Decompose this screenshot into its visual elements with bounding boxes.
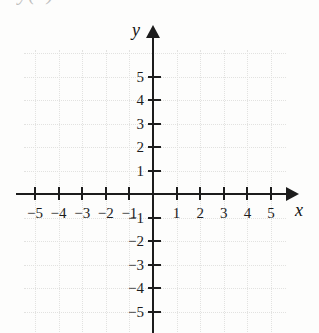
x-axis-tick-label: −4	[46, 206, 72, 221]
y-axis-tick	[148, 217, 161, 219]
y-axis-tick-label: −5	[118, 305, 144, 320]
y-axis-tick-label: 1	[118, 164, 144, 179]
y-axis-tick	[148, 123, 161, 125]
y-axis-label: y	[132, 20, 140, 41]
y-axis-tick	[148, 99, 161, 101]
y-axis-tick-label: −3	[118, 258, 144, 273]
y-axis-tick-label: 3	[118, 117, 144, 132]
x-axis-tick	[105, 187, 107, 200]
y-axis-tick-label: −1	[118, 211, 144, 226]
x-axis-tick	[34, 187, 36, 200]
x-axis-tick-label: −5	[22, 206, 48, 221]
y-axis-arrow-icon	[146, 25, 160, 38]
x-axis-tick	[246, 187, 248, 200]
x-axis-tick	[81, 187, 83, 200]
x-axis-tick	[128, 187, 130, 200]
y-axis-tick	[148, 264, 161, 266]
x-axis-tick-label: 4	[234, 206, 260, 221]
x-axis-tick	[270, 187, 272, 200]
y-axis-tick	[148, 170, 161, 172]
x-axis-tick-label: 2	[187, 206, 213, 221]
x-axis-tick-label: −2	[93, 206, 119, 221]
x-axis-arrow-icon	[286, 187, 299, 201]
y-axis-tick	[148, 240, 161, 242]
coordinate-plane: −5−4−3−2−11234554321−1−2−3−4−5 y x	[0, 14, 319, 333]
x-axis-tick-label: 1	[164, 206, 190, 221]
y-axis-tick-label: 2	[118, 140, 144, 155]
x-axis-tick	[223, 187, 225, 200]
y-axis-tick	[148, 146, 161, 148]
y-axis-tick-label: 5	[118, 70, 144, 85]
x-axis-tick	[58, 187, 60, 200]
x-axis-tick-label: −3	[69, 206, 95, 221]
x-axis-tick-label: 3	[211, 206, 237, 221]
y-axis-tick	[148, 76, 161, 78]
grid-line-horizontal	[24, 53, 286, 55]
x-axis-label: x	[295, 200, 303, 221]
y-axis-tick-label: −2	[118, 234, 144, 249]
y-axis-tick-label: 4	[118, 93, 144, 108]
y-axis-tick	[148, 287, 161, 289]
x-axis-tick	[199, 187, 201, 200]
x-axis-tick	[176, 187, 178, 200]
y-axis-tick-label: −4	[118, 281, 144, 296]
x-axis-tick-label: 5	[258, 206, 284, 221]
y-axis-tick	[148, 311, 161, 313]
